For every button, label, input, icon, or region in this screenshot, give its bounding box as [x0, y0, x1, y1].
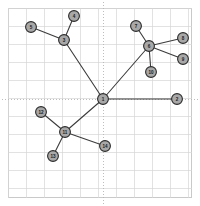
graph-node-3[interactable]: 3 [59, 35, 70, 46]
edge-1-11 [65, 99, 103, 132]
edge-1-6 [103, 46, 149, 99]
node-label-5: 5 [30, 25, 33, 30]
graph-node-7[interactable]: 7 [131, 21, 142, 32]
edge-1-3 [64, 40, 103, 99]
node-label-9: 9 [182, 57, 185, 62]
nodes-layer[interactable]: 1234567891011121314 [26, 11, 189, 162]
node-label-11: 11 [63, 130, 68, 135]
graph-node-4[interactable]: 4 [69, 11, 80, 22]
graph-node-8[interactable]: 8 [178, 33, 189, 44]
graph-node-6[interactable]: 6 [144, 41, 155, 52]
node-label-12: 12 [38, 110, 44, 115]
graph-node-1[interactable]: 1 [98, 94, 109, 105]
graph-node-12[interactable]: 12 [36, 107, 47, 118]
graph-node-13[interactable]: 13 [48, 151, 59, 162]
graph-figure: 1234567891011121314 [0, 0, 200, 206]
node-label-7: 7 [135, 24, 138, 29]
graph-node-11[interactable]: 11 [60, 127, 71, 138]
edges-layer [31, 16, 183, 156]
edge-11-14 [65, 132, 105, 146]
graph-node-14[interactable]: 14 [100, 141, 111, 152]
graph-canvas[interactable]: 1234567891011121314 [0, 0, 200, 206]
node-label-14: 14 [102, 144, 108, 149]
graph-node-9[interactable]: 9 [178, 54, 189, 65]
graph-node-2[interactable]: 2 [172, 94, 183, 105]
node-label-4: 4 [73, 14, 76, 19]
node-label-1: 1 [102, 97, 105, 102]
node-label-8: 8 [182, 36, 185, 41]
node-label-13: 13 [50, 154, 56, 159]
graph-node-5[interactable]: 5 [26, 22, 37, 33]
graph-node-10[interactable]: 10 [146, 67, 157, 78]
node-label-2: 2 [176, 97, 179, 102]
node-label-10: 10 [148, 70, 154, 75]
node-label-3: 3 [63, 38, 66, 43]
node-label-6: 6 [148, 44, 151, 49]
